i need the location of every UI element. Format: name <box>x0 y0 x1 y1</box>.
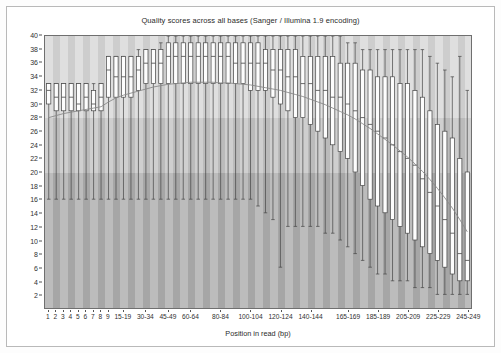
x-axis-tick-mark <box>93 310 94 312</box>
y-axis-tick-mark <box>39 89 42 90</box>
boxplot-box <box>248 36 252 199</box>
y-axis-tick-label: 18 <box>30 182 38 189</box>
boxplot-box <box>435 63 439 294</box>
boxplot-box <box>54 84 58 200</box>
y-axis-tick-label: 32 <box>30 86 38 93</box>
y-axis-tick-mark <box>39 62 42 63</box>
y-axis-tick-mark <box>39 185 42 186</box>
x-axis-tick-mark <box>348 310 349 312</box>
boxplot-box <box>398 50 402 281</box>
y-axis-tick-label: 38 <box>30 45 38 52</box>
x-axis-tick-mark <box>220 310 221 312</box>
y-axis-tick-mark <box>39 199 42 200</box>
x-axis-tick-label: 2 <box>53 313 57 320</box>
y-axis-tick-mark <box>39 267 42 268</box>
boxplot-box <box>308 36 312 226</box>
boxplot-box <box>465 90 469 294</box>
boxplot-box <box>263 36 267 213</box>
boxplot-box <box>144 50 148 200</box>
x-axis-tick-mark <box>85 310 86 312</box>
y-axis-tick-label: 24 <box>30 141 38 148</box>
x-axis-tick-label: 165-169 <box>336 313 360 320</box>
chart-title: Quality scores across all bases (Sanger … <box>7 16 494 25</box>
boxplot-box <box>286 36 290 226</box>
x-axis-tick-label: 45-49 <box>159 313 176 320</box>
boxplot-box <box>226 36 230 199</box>
boxplot-box <box>346 43 350 247</box>
boxplot-box <box>62 84 66 200</box>
x-axis-tick-mark <box>108 310 109 312</box>
y-axis-tick-mark <box>39 295 42 296</box>
boxplot-box <box>47 84 51 200</box>
boxplot-box <box>420 50 424 288</box>
x-axis-tick-mark <box>55 310 56 312</box>
x-axis-tick-label: 3 <box>61 313 65 320</box>
x-axis-tick-label: 100-104 <box>238 313 262 320</box>
boxplot-box <box>136 50 140 200</box>
x-axis-tick-label: 120-124 <box>268 313 292 320</box>
y-axis-tick-mark <box>39 144 42 145</box>
x-axis-tick-mark <box>63 310 64 312</box>
boxplot-box <box>271 36 275 220</box>
boxplot-box <box>77 84 81 200</box>
y-axis-tick-mark <box>39 35 42 36</box>
boxplot-box <box>181 36 185 199</box>
boxplot-box <box>390 50 394 281</box>
x-axis-tick-label: 185-189 <box>366 313 390 320</box>
x-axis-tick-label: 5 <box>76 313 80 320</box>
boxplot-box <box>219 36 223 199</box>
y-axis-tick-mark <box>39 130 42 131</box>
y-axis: 246810121416182022242628303234363840 <box>7 35 42 309</box>
x-axis-tick-label: 6 <box>83 313 87 320</box>
boxplot-box <box>338 36 342 240</box>
boxplot-box <box>166 36 170 199</box>
boxplot-box <box>293 36 297 226</box>
boxplot-box <box>443 70 447 294</box>
x-axis-tick-mark <box>48 310 49 312</box>
y-axis-tick-mark <box>39 172 42 173</box>
y-axis-tick-mark <box>39 226 42 227</box>
boxplot-box <box>99 84 103 200</box>
x-axis-tick-mark <box>281 310 282 312</box>
boxplot-box <box>159 43 163 199</box>
plot-area <box>44 35 472 309</box>
boxplot-box <box>383 50 387 274</box>
x-axis-tick-label: 140-144 <box>298 313 322 320</box>
x-axis-tick-mark <box>311 310 312 312</box>
boxplot-box <box>405 50 409 281</box>
y-axis-tick-label: 6 <box>34 264 38 271</box>
y-axis-tick-mark <box>39 240 42 241</box>
boxplot-box <box>323 36 327 233</box>
boxplot-box <box>196 36 200 199</box>
x-axis-label: Position in read (bp) <box>44 329 472 338</box>
boxplot-box <box>278 36 282 267</box>
boxplot-box <box>413 50 417 288</box>
boxplot-box <box>331 36 335 233</box>
x-axis-tick-label: 245-249 <box>456 313 480 320</box>
y-axis-tick-mark <box>39 117 42 118</box>
x-axis-tick-mark <box>468 310 469 312</box>
boxplot-box <box>241 36 245 199</box>
x-axis-tick-mark <box>100 310 101 312</box>
boxplot-box <box>353 43 357 254</box>
boxplot-box <box>106 56 110 199</box>
y-axis-tick-label: 16 <box>30 196 38 203</box>
boxplot-box <box>174 36 178 199</box>
x-axis-tick-label: 9 <box>106 313 110 320</box>
y-axis-tick-label: 40 <box>30 32 38 39</box>
x-axis-tick-label: 8 <box>98 313 102 320</box>
boxplot-box <box>151 50 155 200</box>
boxplot-box <box>204 36 208 199</box>
y-axis-tick-mark <box>39 281 42 282</box>
x-axis-tick-label: 4 <box>68 313 72 320</box>
x-axis-tick-mark <box>438 310 439 312</box>
boxplot-box <box>375 50 379 274</box>
boxplot-box <box>129 56 133 199</box>
x-axis-tick-mark <box>145 310 146 312</box>
boxplot-box <box>84 84 88 200</box>
y-axis-tick-label: 26 <box>30 127 38 134</box>
y-axis-tick-label: 36 <box>30 59 38 66</box>
boxplot-box <box>91 84 95 200</box>
boxplot-box <box>301 36 305 226</box>
y-axis-tick-label: 10 <box>30 237 38 244</box>
